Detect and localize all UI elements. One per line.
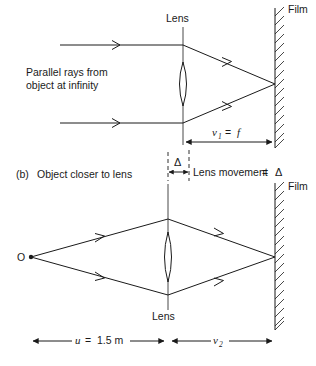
object-ray-upper — [31, 219, 168, 257]
v1-value: f — [237, 126, 242, 138]
dimension-v1: v 1 = f — [186, 126, 272, 142]
parallel-rays-caption-line1: Parallel rays from — [26, 66, 108, 78]
film-wall-top — [275, 7, 284, 148]
u-value: 1.5 m — [97, 334, 124, 346]
film-label-top: Film — [288, 3, 308, 15]
v1-subscript: 1 — [218, 132, 222, 141]
optics-figure: Film Lens Parallel rays from object at — [0, 0, 316, 366]
lens-movement-equals: = — [262, 166, 268, 178]
parallel-rays-caption-line2: object at infinity — [26, 79, 99, 91]
u-symbol: u — [75, 334, 81, 346]
dimension-u-v2: u = 1.5 m v 2 — [33, 333, 272, 349]
figure-canvas: Film Lens Parallel rays from object at — [0, 0, 316, 366]
converging-ray-lower — [183, 84, 275, 123]
converging-ray-upper — [183, 45, 275, 84]
image-ray-lower — [168, 257, 275, 295]
v2-subscript: 2 — [219, 340, 223, 349]
delta-symbol-small: Δ — [174, 156, 182, 168]
lens-element-bottom — [165, 232, 172, 282]
image-ray-upper — [168, 219, 275, 257]
lens-movement-label: Lens movement — [193, 166, 268, 178]
v1-symbol: v — [212, 126, 217, 138]
part-b-caption: Object closer to lens — [37, 168, 132, 180]
film-hatching-bottom — [275, 182, 284, 330]
panel-parallel-rays: Film Lens Parallel rays from object at — [26, 3, 308, 148]
lens-movement-value: Δ — [275, 166, 283, 178]
panel-lens-movement: Δ Lens movement = Δ — [168, 150, 283, 181]
u-equals: = — [85, 334, 91, 346]
image-ray-upper-arrowhead — [214, 228, 224, 236]
object-point-label: O — [17, 251, 25, 263]
lens-label-bottom: Lens — [152, 310, 175, 322]
v2-symbol: v — [213, 334, 218, 346]
object-ray-lower — [31, 257, 168, 295]
lens-label-top: Lens — [166, 12, 189, 24]
film-label-bottom: Film — [288, 180, 308, 192]
panel-object-closer: Film O Lens — [17, 180, 308, 349]
v1-equals: = — [225, 126, 231, 138]
lens-element-top — [180, 62, 187, 106]
film-wall-bottom — [275, 182, 284, 330]
film-hatching-top — [275, 7, 284, 148]
part-b-marker: (b) — [16, 168, 29, 180]
image-ray-lower-arrowhead — [214, 278, 224, 286]
